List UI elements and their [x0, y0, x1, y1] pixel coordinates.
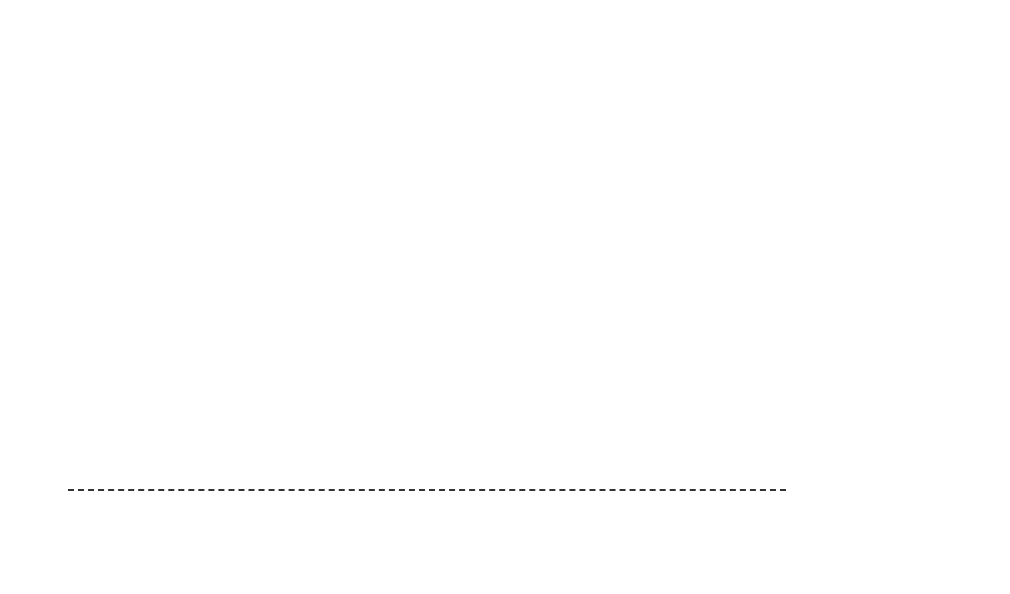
figure-panel — [0, 0, 1010, 594]
x-axis-baseline — [68, 489, 786, 491]
plot-area — [0, 0, 1010, 594]
